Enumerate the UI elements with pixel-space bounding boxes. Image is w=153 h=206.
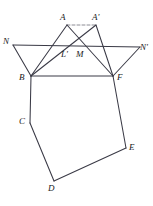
seg-A-F	[67, 25, 113, 76]
seg-C-D	[30, 123, 54, 181]
seg-Ap-F	[96, 25, 113, 76]
seg-B-C	[30, 76, 31, 123]
vertex-label-np: N'	[140, 43, 148, 52]
vertex-label-ap: A'	[92, 13, 99, 22]
vertex-label-e: E	[129, 143, 135, 152]
seg-E-F	[113, 76, 126, 148]
vertex-label-b: B	[19, 73, 25, 82]
seg-N-Np	[13, 45, 140, 47]
vertex-label-d: D	[48, 184, 55, 193]
seg-D-E	[54, 148, 126, 181]
diagram-canvas	[0, 0, 153, 206]
vertex-label-a: A	[60, 13, 66, 22]
geometry-figure: AA'NN'L'MBFCDE	[0, 0, 153, 206]
vertex-label-f: F	[117, 73, 123, 82]
vertex-label-lp: L'	[61, 50, 68, 59]
vertex-label-m: M	[76, 50, 84, 59]
vertex-label-n: N	[3, 37, 9, 46]
vertex-label-c: C	[19, 117, 25, 126]
